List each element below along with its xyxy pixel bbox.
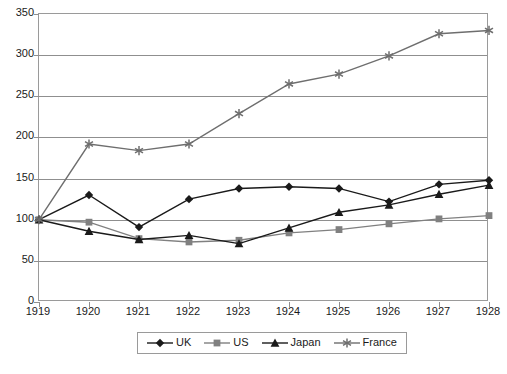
diamond-marker — [85, 191, 93, 199]
series-layer — [39, 14, 489, 302]
series-line — [39, 216, 489, 242]
legend-item-france[interactable]: France — [334, 337, 397, 349]
x-axis-tick-label: 1920 — [68, 305, 108, 317]
x-axis-tick-label: 1921 — [118, 305, 158, 317]
legend-item-us[interactable]: US — [204, 337, 248, 349]
triangle-marker — [485, 181, 494, 189]
legend-item-japan[interactable]: Japan — [262, 337, 321, 349]
y-axis-tick-label: 200 — [4, 130, 34, 141]
x-axis-tick-label: 1927 — [418, 305, 458, 317]
diamond-marker — [335, 184, 343, 192]
series-us — [36, 212, 493, 245]
x-axis-tick-label: 1926 — [368, 305, 408, 317]
legend-label: US — [233, 337, 248, 348]
square-marker — [214, 339, 221, 346]
x-axis-tick-label: 1923 — [218, 305, 258, 317]
legend-triangle-icon — [262, 337, 288, 349]
series-line — [39, 30, 489, 219]
square-marker — [86, 219, 93, 226]
y-axis-tick-label: 300 — [4, 48, 34, 59]
diamond-marker — [156, 338, 164, 346]
chart-legend: UKUSJapanFrance — [137, 332, 407, 354]
plot-area — [38, 13, 488, 301]
y-axis-labels: 050100150200250300350 — [0, 13, 34, 301]
asterisk-marker — [235, 109, 243, 118]
legend-diamond-icon — [147, 337, 173, 349]
legend-label: France — [363, 337, 397, 348]
diamond-marker — [285, 183, 293, 191]
square-marker — [486, 212, 493, 219]
x-axis-tick-label: 1928 — [468, 305, 507, 317]
legend-label: UK — [176, 337, 191, 348]
x-axis-tick-label: 1924 — [268, 305, 308, 317]
diamond-marker — [135, 223, 143, 231]
x-axis-tick-label: 1925 — [318, 305, 358, 317]
line-chart: 050100150200250300350 191919201921192219… — [0, 0, 507, 374]
series-france — [35, 26, 493, 224]
y-axis-tick-label: 250 — [4, 89, 34, 100]
square-marker — [186, 239, 193, 246]
diamond-marker — [185, 195, 193, 203]
x-axis-labels: 1919192019211922192319241925192619271928 — [38, 305, 488, 321]
y-axis-tick-label: 100 — [4, 213, 34, 224]
diamond-marker — [435, 180, 443, 188]
diamond-marker — [235, 184, 243, 192]
asterisk-marker — [385, 51, 393, 60]
legend-item-uk[interactable]: UK — [147, 337, 191, 349]
square-marker — [436, 215, 443, 222]
x-axis-tick-label: 1919 — [18, 305, 58, 317]
series-japan — [35, 181, 494, 248]
legend-label: Japan — [291, 337, 321, 348]
series-uk — [35, 176, 493, 231]
x-axis-tick-label: 1922 — [168, 305, 208, 317]
legend-square-icon — [204, 337, 230, 349]
legend-asterisk-icon — [334, 337, 360, 349]
y-axis-tick-label: 150 — [4, 172, 34, 183]
series-line — [39, 185, 489, 243]
square-marker — [336, 226, 343, 233]
square-marker — [386, 220, 393, 227]
y-axis-tick-label: 50 — [4, 254, 34, 265]
y-axis-tick-label: 350 — [4, 7, 34, 18]
